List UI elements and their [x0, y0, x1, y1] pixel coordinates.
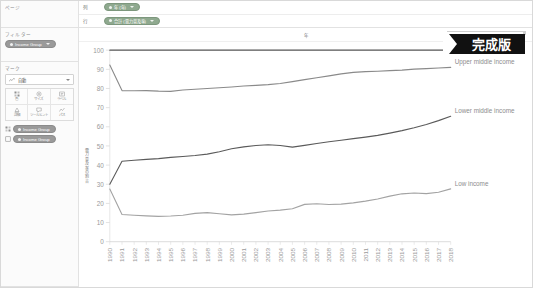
x-axis-tick-label: 2017	[435, 247, 442, 262]
y-axis-tick-label: 90	[97, 66, 104, 73]
x-axis-tick-label: 2004	[277, 247, 284, 262]
x-axis-tick-label: 1990	[106, 247, 113, 262]
marks-button-path-label: パス	[59, 114, 65, 118]
x-axis-tick-label: 2003	[265, 247, 272, 262]
series-line[interactable]	[110, 116, 451, 184]
marks-button-detail-label: 詳細	[14, 114, 20, 118]
marks-button-color[interactable]: 色	[6, 89, 28, 105]
y-axis-tick-label: 80	[97, 85, 104, 92]
chevron-down-icon[interactable]	[150, 20, 154, 22]
marks-button-color-label: 色	[15, 98, 18, 102]
detail-slot-icon	[5, 136, 11, 142]
filter-pill-income-group[interactable]: Income Group	[5, 40, 56, 48]
shelf-area: ページ 列 年 (年) 行 合計 (電力普及率)	[1, 1, 532, 28]
chevron-down-icon[interactable]	[66, 79, 70, 81]
pages-card[interactable]: ページ	[1, 1, 79, 27]
dimension-field-icon	[18, 128, 21, 131]
marks-pill-row-detail[interactable]: Income Group	[5, 135, 74, 143]
marks-property-grid: 色 サイズ	[5, 88, 74, 121]
pages-card-title: ページ	[5, 4, 74, 10]
mark-type-label: 自動	[18, 77, 26, 83]
chevron-down-icon[interactable]	[46, 43, 50, 45]
series-label: Low income	[455, 180, 489, 187]
series-label: High income	[455, 44, 491, 49]
marks-pill-color-label: Income Group	[23, 127, 50, 132]
x-axis-tick-label: 2001	[240, 247, 247, 262]
line-chart[interactable]: 0102030405060708090100199019911992199319…	[90, 44, 526, 287]
marks-card: マーク 自動	[1, 62, 78, 287]
marks-pill-color-income-group[interactable]: Income Group	[13, 125, 56, 133]
viz-pane: 年 電力普及率の割合 01020304050607080901001990199…	[79, 28, 532, 287]
color-slot-icon	[5, 126, 11, 132]
marks-pill-detail-label: Income Group	[23, 137, 50, 142]
y-axis-tick-label: 70	[97, 104, 104, 111]
marks-button-path[interactable]: パス	[51, 105, 73, 120]
y-axis-tick-label: 100	[93, 47, 104, 54]
x-axis-tick-label: 2014	[398, 247, 405, 262]
series-line[interactable]	[110, 65, 451, 91]
x-axis-tick-label: 1993	[143, 247, 150, 262]
columns-pill-label: 年 (年)	[114, 4, 126, 10]
marks-button-label[interactable]: ラベル	[51, 89, 73, 105]
left-rail: フィルター Income Group マーク 自動	[1, 28, 79, 287]
x-axis-tick-label: 2008	[325, 247, 332, 262]
x-axis-tick-label: 1995	[167, 247, 174, 262]
y-axis-tick-label: 40	[97, 162, 104, 169]
columns-shelf[interactable]: 列 年 (年)	[79, 1, 532, 15]
chart-canvas[interactable]: 0102030405060708090100199019911992199319…	[90, 44, 526, 287]
x-axis-tick-label: 1999	[216, 247, 223, 262]
filters-card[interactable]: フィルター Income Group	[1, 28, 78, 62]
marks-pill-detail-income-group[interactable]: Income Group	[13, 135, 56, 143]
columns-pill-year[interactable]: 年 (年)	[104, 3, 140, 11]
x-axis-tick-label: 2002	[252, 247, 259, 262]
marks-card-title: マーク	[5, 65, 74, 71]
rows-pill-electricity-access[interactable]: 合計 (電力普及率)	[104, 17, 160, 25]
filter-pill-label: Income Group	[15, 42, 42, 47]
y-axis-tick-label: 30	[97, 181, 104, 188]
marks-button-label-label: ラベル	[57, 98, 66, 102]
x-axis-tick-label: 2006	[301, 247, 308, 262]
x-axis-tick-label: 1998	[204, 247, 211, 262]
filters-card-title: フィルター	[5, 31, 74, 37]
y-axis-tick-label: 10	[97, 219, 104, 226]
marks-button-tooltip[interactable]: ツールヒント	[28, 105, 50, 120]
tableau-worksheet-window: ページ 列 年 (年) 行 合計 (電力普及率)	[0, 0, 533, 288]
x-axis-tick-label: 2016	[423, 247, 430, 262]
x-axis-tick-label: 1991	[118, 247, 125, 262]
dimension-field-icon	[10, 43, 13, 46]
marks-button-tooltip-label: ツールヒント	[30, 114, 48, 118]
chevron-down-icon[interactable]	[130, 6, 134, 8]
y-axis-title: 電力普及率の割合	[81, 44, 90, 287]
x-axis-tick-label: 2005	[289, 247, 296, 262]
columns-shelf-label: 列	[83, 4, 99, 10]
x-axis-tick-label: 2013	[386, 247, 393, 262]
mark-type-selector[interactable]: 自動	[5, 74, 74, 85]
continuous-field-icon	[109, 6, 112, 9]
marks-assigned-pills: Income Group Income Group	[5, 125, 74, 143]
line-mark-icon	[9, 78, 15, 82]
workbook-body: フィルター Income Group マーク 自動	[1, 28, 532, 287]
x-axis-tick-label: 2010	[350, 247, 357, 262]
measure-field-icon	[109, 19, 112, 22]
y-axis-tick-label: 60	[97, 123, 104, 130]
x-axis-tick-label: 2000	[228, 247, 235, 262]
x-axis-tick-label: 2007	[313, 247, 320, 262]
marks-button-detail[interactable]: 詳細	[6, 105, 28, 120]
chart-title: 年	[79, 28, 532, 42]
rows-pill-label: 合計 (電力普及率)	[114, 18, 146, 24]
y-axis-tick-label: 50	[97, 142, 104, 149]
x-axis-tick-label: 2015	[411, 247, 418, 262]
dimension-field-icon	[18, 138, 21, 141]
series-line[interactable]	[110, 189, 451, 217]
marks-button-size[interactable]: サイズ	[28, 89, 50, 105]
x-axis-tick-label: 2011	[362, 247, 369, 261]
shelves-container: 列 年 (年) 行 合計 (電力普及率)	[79, 1, 532, 27]
x-axis-tick-label: 2018	[447, 247, 454, 262]
x-axis-tick-label: 1994	[155, 247, 162, 262]
series-label: Upper middle income	[455, 58, 515, 66]
rows-shelf[interactable]: 行 合計 (電力普及率)	[79, 15, 532, 28]
marks-pill-row-color[interactable]: Income Group	[5, 125, 74, 133]
rows-shelf-label: 行	[83, 18, 99, 24]
x-axis-tick-label: 1992	[131, 247, 138, 262]
series-label: Lower middle income	[455, 107, 515, 114]
